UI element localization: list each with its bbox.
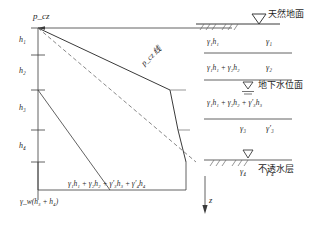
ground-surface-hatch [200,24,238,30]
impervious-layer-symbol-icon [243,150,253,158]
depth-axis-label: z [209,196,212,205]
unit-weight-layer2-natural: γ₂ [266,64,272,72]
z-axis-arrowhead [202,205,207,214]
pore-water-pressure-label: γ_w(h₃ + h₄) [20,198,58,206]
unit-weight-layer3-effective: γ′₃ [266,125,274,133]
water-table-annotation: 地下水位面 [258,81,303,90]
stress-value-layer1: γ₁h₁ [207,38,219,46]
depth-label-h1: h₁ [19,36,26,44]
unit-weight-layer4-natural: γ₄ [240,168,246,176]
unit-weight-layer1-natural: γ₁ [266,38,272,46]
depth-label-h4: h₄ [19,142,26,150]
total-stress-label: γ₁h₁ + γ₂h₂ + γ′₃h₃ + γ′₄h₄ [68,180,145,188]
stress-distribution-line [38,28,186,162]
water-table-symbol-icon [242,82,254,94]
unit-weight-layer3-natural: γ₃ [240,125,246,133]
ground-surface-annotation: 天然地面 [268,10,304,19]
stress-value-layer2: γ₁h₁ + γ₂h₂ [207,64,240,72]
stress-dashed-extension [38,28,196,162]
stress-value-layer3: γ₁h₁ + γ₂h₂ + γ′₃h₃ [207,99,262,107]
pore-pressure-line [38,90,110,190]
impervious-layer-hatch [210,160,248,166]
figure-canvas: p_cz h₁ h₂ h₃ h₄ p_cz 线 γ₁h₁ γ₁h₁ + γ₂h₂… [0,0,317,235]
top-stress-label: p_cz [33,12,50,21]
depth-label-h2: h₂ [19,67,26,75]
stress-connector-ticks [170,90,190,130]
ground-level-triangle-icon [252,14,266,24]
depth-label-h3: h₃ [19,104,26,112]
impervious-layer-annotation: 不透水层 [258,165,294,174]
